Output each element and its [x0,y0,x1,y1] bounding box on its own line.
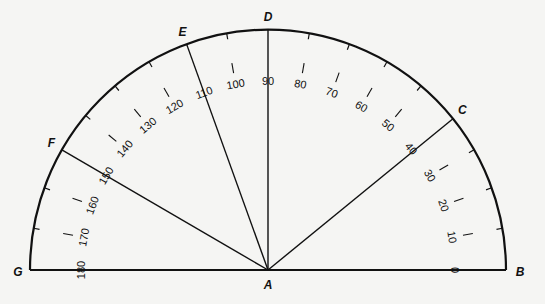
arc-tick [417,86,421,91]
point-label-B: B [516,265,525,279]
point-label-D: D [264,10,273,24]
degree-label-50: 50 [380,117,397,134]
inner-tick-50 [395,109,401,117]
inner-tick-140 [109,135,117,141]
ray-AE [187,44,268,270]
arc-tick [486,188,492,190]
point-labels: BCDEFGA [13,10,524,293]
degree-label-20: 20 [436,198,451,214]
degree-label-160: 160 [83,195,101,216]
degree-label-130: 130 [137,115,159,136]
arc-tick [384,62,387,67]
inner-tick-30 [439,165,448,170]
degree-label-60: 60 [353,98,370,115]
point-label-G: G [13,265,22,279]
degree-label-110: 110 [194,84,215,101]
degree-label-180: 180 [75,261,87,279]
degree-label-80: 80 [293,77,307,91]
inner-tick-120 [164,88,169,97]
degree-label-100: 100 [225,76,245,91]
arc-tick [115,86,119,91]
inner-tick-60 [367,88,372,97]
arc-tick [347,44,349,50]
inner-tick-20 [454,198,463,201]
point-label-E: E [178,25,187,39]
degree-label-0: 0 [449,267,461,273]
arc-tick [149,62,152,67]
degree-label-90: 90 [262,75,274,87]
arc-tick [469,150,474,153]
inner-tick-100 [232,63,234,73]
degree-label-120: 120 [164,97,186,117]
point-label-C: C [458,103,467,117]
inner-tick-160 [73,198,82,201]
inner-tick-170 [63,234,73,236]
degree-label-40: 40 [403,140,420,157]
ray-AC [268,119,453,270]
degree-label-10: 10 [445,230,459,244]
arc-tick [44,188,50,190]
degree-label-30: 30 [422,167,439,184]
degree-label-150: 150 [96,165,116,187]
arc-tick [86,115,91,119]
inner-tick-80 [302,63,304,73]
point-label-F: F [48,136,56,150]
protractor-diagram: 0102030405060708090100110120130140150160… [0,0,545,304]
inner-tick-10 [463,234,473,236]
inner-tick-70 [336,73,339,82]
degree-label-170: 170 [76,227,91,247]
degree-label-140: 140 [114,138,135,160]
degree-label-70: 70 [324,85,340,100]
point-label-A: A [263,278,273,292]
inner-tick-130 [134,109,140,117]
protractor-figure: 0102030405060708090100110120130140150160… [0,0,545,304]
